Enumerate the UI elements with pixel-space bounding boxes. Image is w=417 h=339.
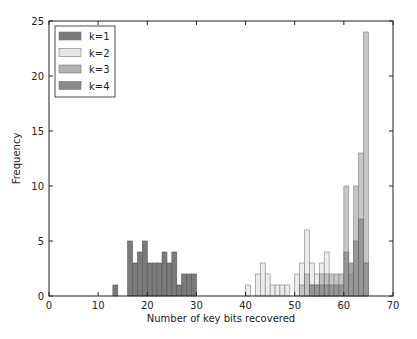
series-k1 xyxy=(113,241,197,296)
histogram-bar xyxy=(152,263,157,296)
legend-label: k=4 xyxy=(89,81,110,92)
bars xyxy=(113,32,369,296)
histogram-bar xyxy=(334,285,339,296)
histogram-bar xyxy=(329,285,334,296)
y-tick-label: 10 xyxy=(31,181,44,192)
x-tick-label: 40 xyxy=(239,300,252,311)
histogram-bar xyxy=(147,263,152,296)
x-tick-label: 50 xyxy=(288,300,301,311)
histogram-bar xyxy=(295,274,300,296)
legend-label: k=2 xyxy=(89,48,110,59)
histogram-bar xyxy=(177,285,182,296)
histogram-bar xyxy=(113,285,118,296)
histogram-bar xyxy=(324,285,329,296)
legend: k=1k=2k=3k=4 xyxy=(55,26,115,97)
histogram-bar xyxy=(157,263,162,296)
x-axis-label: Number of key bits recovered xyxy=(147,313,295,324)
x-tick-label: 20 xyxy=(141,300,154,311)
x-tick-label: 0 xyxy=(46,300,52,311)
histogram-bar xyxy=(344,252,349,296)
histogram-bar xyxy=(265,274,270,296)
histogram-bar xyxy=(280,285,285,296)
histogram-bar xyxy=(354,241,359,296)
histogram-bar xyxy=(339,285,344,296)
y-tick-label: 15 xyxy=(31,126,44,137)
legend-swatch xyxy=(59,49,81,57)
histogram-bar xyxy=(359,219,364,296)
histogram-bar xyxy=(246,285,251,296)
legend-swatch xyxy=(59,65,81,73)
histogram-bar xyxy=(349,263,354,296)
x-tick-label: 70 xyxy=(387,300,400,311)
histogram-chart: 0102030405060700510152025Number of key b… xyxy=(0,0,417,339)
y-tick-label: 20 xyxy=(31,71,44,82)
histogram-bar xyxy=(187,274,192,296)
histogram-bar xyxy=(364,32,369,296)
legend-label: k=1 xyxy=(89,31,110,42)
histogram-bar xyxy=(255,274,260,296)
y-tick-label: 0 xyxy=(38,291,44,302)
histogram-bar xyxy=(309,285,314,296)
y-tick-label: 25 xyxy=(31,16,44,27)
x-tick-label: 60 xyxy=(337,300,350,311)
histogram-bar xyxy=(300,285,305,296)
histogram-bar xyxy=(133,263,138,296)
histogram-bar xyxy=(270,285,275,296)
histogram-bar xyxy=(162,252,167,296)
histogram-bar xyxy=(319,285,324,296)
histogram-bar xyxy=(192,274,197,296)
y-tick-label: 5 xyxy=(38,236,44,247)
x-tick-label: 10 xyxy=(92,300,105,311)
x-tick-label: 30 xyxy=(190,300,203,311)
histogram-bar xyxy=(182,274,187,296)
histogram-bar xyxy=(172,252,177,296)
legend-label: k=3 xyxy=(89,64,110,75)
y-axis-label: Frequency xyxy=(11,133,22,185)
histogram-bar xyxy=(364,263,369,296)
histogram-bar xyxy=(285,285,290,296)
histogram-bar xyxy=(142,241,147,296)
histogram-bar xyxy=(314,285,319,296)
histogram-bar xyxy=(260,263,265,296)
histogram-bar xyxy=(137,252,142,296)
histogram-bar xyxy=(275,285,280,296)
histogram-bar xyxy=(167,263,172,296)
histogram-bar xyxy=(128,241,133,296)
legend-swatch xyxy=(59,32,81,40)
legend-swatch xyxy=(59,82,81,90)
histogram-bar xyxy=(305,274,310,296)
